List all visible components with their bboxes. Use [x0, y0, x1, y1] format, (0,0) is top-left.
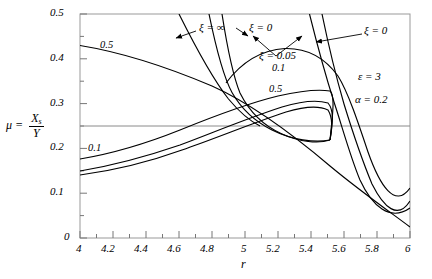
x-axis-label: r	[241, 258, 246, 270]
curve-label-0-5-mid: 0.5	[269, 84, 282, 95]
y-axis-denominator: Y	[31, 127, 42, 139]
y-tick-0-2: 0.2	[50, 141, 64, 152]
leader-xi-infinity	[176, 31, 196, 38]
y-tick-0-4: 0.4	[50, 52, 64, 63]
y-tick-0-1: 0.1	[50, 186, 64, 197]
y-axis-equals: =	[15, 118, 23, 133]
x-tick-4: 4	[76, 243, 82, 254]
curve-label-0-5-left: 0.5	[100, 40, 113, 51]
curve-label-0-1-upper: 0.1	[272, 63, 285, 74]
y-axis-label: μ = Xs Y	[6, 112, 44, 139]
curve-steep-right-b	[322, 14, 410, 210]
x-tick-4-6: 4.6	[167, 243, 181, 254]
x-tick-4-4: 4.4	[134, 243, 148, 254]
x-tick-5-2: 5.2	[266, 243, 280, 254]
data-curves	[80, 14, 410, 227]
figure-root: 0.5 0.4 0.3 0.2 0.1 0 4 4.2 4.4 4.6 4.8 …	[0, 0, 432, 279]
x-tick-4-2: 4.2	[101, 243, 115, 254]
annotation-xi-zero-left: ξ = 0	[249, 22, 272, 33]
parameter-epsilon: ε = 3	[358, 71, 381, 82]
leader-xi-0-left	[236, 28, 248, 36]
y-tick-0-3: 0.3	[50, 97, 64, 108]
curve-low-rise-1	[80, 90, 333, 159]
curve-low-rise-2	[80, 101, 332, 171]
y-axis-numerator: Xs	[29, 112, 43, 127]
y-tick-0: 0	[64, 231, 70, 242]
curve-label-0-1-lower: 0.1	[88, 143, 101, 154]
y-axis-mu: μ	[6, 118, 12, 133]
x-tick-5-8: 5.8	[365, 243, 379, 254]
annotation-xi-005: ξ = 0.05	[259, 50, 296, 61]
x-tick-5: 5	[241, 243, 247, 254]
parameter-alpha: α = 0.2	[355, 94, 387, 105]
y-axis-fraction: Xs Y	[29, 112, 43, 139]
x-axis-ticks	[80, 231, 410, 238]
curve-steep-right-a	[310, 14, 411, 213]
leader-xi-0-right	[316, 34, 362, 42]
x-tick-5-4: 5.4	[299, 243, 313, 254]
x-tick-6: 6	[405, 243, 411, 254]
annotation-xi-infinity: ξ = ∞	[199, 22, 224, 33]
annotation-xi-zero-right: ξ = 0	[364, 25, 387, 36]
x-tick-4-8: 4.8	[200, 243, 214, 254]
y-tick-0-5: 0.5	[50, 7, 64, 18]
x-tick-5-6: 5.6	[332, 243, 346, 254]
curve-steep-left-a	[209, 14, 330, 141]
curve-low-rise-3	[80, 107, 332, 175]
